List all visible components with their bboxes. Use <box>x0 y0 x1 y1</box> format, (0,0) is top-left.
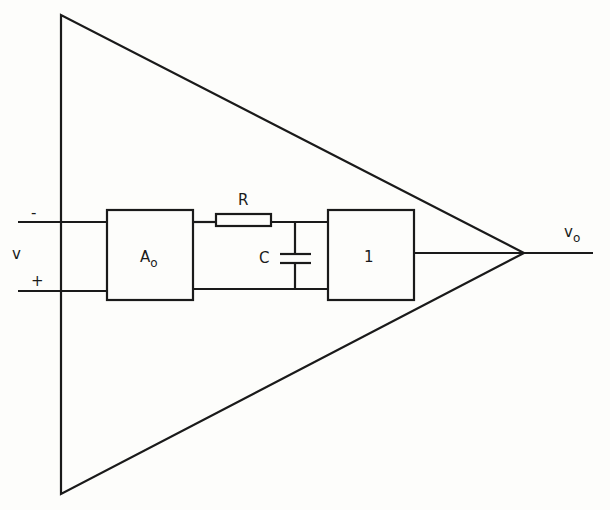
capacitor-label: C <box>259 251 269 266</box>
gain-block-label: Ao <box>140 250 158 265</box>
input-voltage-label: v <box>12 247 21 262</box>
output-voltage-label: vo <box>564 225 580 240</box>
opamp-diagram <box>0 0 610 510</box>
plus-label: + <box>31 274 44 289</box>
resistor <box>216 214 271 226</box>
resistor-label: R <box>238 193 248 208</box>
minus-label: - <box>31 206 36 221</box>
buffer-block-label: 1 <box>364 250 374 265</box>
